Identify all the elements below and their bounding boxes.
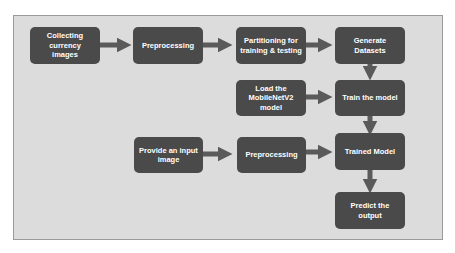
- node-preprocessing-1: Preprocessing: [133, 27, 203, 64]
- node-partitioning: Partitioning for training & testing: [236, 27, 306, 64]
- node-generate-datasets: Generate Datasets: [335, 27, 405, 64]
- node-train-the-model: Train the model: [335, 80, 405, 116]
- node-load-mobilenetv2: Load the MobileNetV2 model: [236, 80, 306, 116]
- node-provide-input-image: Provide an input image: [134, 137, 203, 173]
- node-collecting-currency-images: Collecting currency images: [30, 27, 100, 64]
- node-preprocessing-2: Preprocessing: [237, 137, 306, 173]
- node-predict-output: Predict the output: [335, 192, 405, 229]
- node-trained-model: Trained Model: [335, 133, 405, 170]
